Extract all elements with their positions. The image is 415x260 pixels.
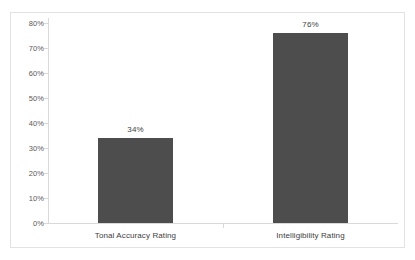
y-axis-tick-mark <box>44 123 48 124</box>
bar-value-label: 76% <box>253 20 368 30</box>
y-axis-tick-mark <box>44 173 48 174</box>
y-axis-tick-label: 20% <box>10 169 44 178</box>
y-axis-tick-mark <box>44 198 48 199</box>
y-axis-tick-label: 60% <box>10 69 44 78</box>
y-axis-tick-label: 50% <box>10 94 44 103</box>
y-axis-line <box>48 18 49 223</box>
y-axis-tick-label: 70% <box>10 44 44 53</box>
y-axis-tick-mark <box>44 48 48 49</box>
bar-chart: 80%70%60%50%40%30%20%10%0% 34%Tonal Accu… <box>0 0 415 260</box>
category-axis-label: Intelligibility Rating <box>223 230 398 241</box>
category-axis-label: Tonal Accuracy Rating <box>48 230 223 241</box>
y-axis-tick-mark <box>44 23 48 24</box>
y-axis-tick-mark <box>44 148 48 149</box>
y-axis-tick-label: 10% <box>10 194 44 203</box>
y-axis-tick-mark <box>44 73 48 74</box>
y-axis-tick-label: 80% <box>10 19 44 28</box>
category-separator-tick <box>223 223 224 228</box>
bar <box>98 138 173 223</box>
y-axis-tick-label: 40% <box>10 119 44 128</box>
bar-value-label: 34% <box>78 125 193 135</box>
bar <box>273 33 348 223</box>
y-axis-tick-labels: 80%70%60%50%40%30%20%10%0% <box>8 0 44 260</box>
y-axis-tick-label: 30% <box>10 144 44 153</box>
y-axis-tick-mark <box>44 223 48 224</box>
y-axis-tick-label: 0% <box>10 219 44 228</box>
y-axis-tick-mark <box>44 98 48 99</box>
